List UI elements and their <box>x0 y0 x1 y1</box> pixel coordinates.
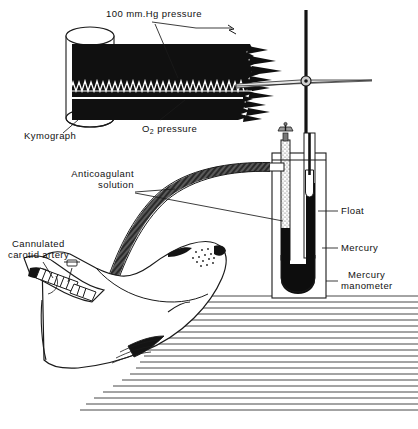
label-kymograph: Kymograph <box>24 130 76 141</box>
label-cannulated-line1: Cannulated <box>12 238 65 249</box>
label-float: Float <box>341 205 364 216</box>
o2-prefix: O <box>142 123 150 134</box>
label-pressure-scale: 100 mm.Hg pressure <box>96 8 212 19</box>
label-anticoagulant-line1: Anticoagulant <box>40 168 134 179</box>
o2-suffix: pressure <box>154 123 197 134</box>
label-mercury-manometer-line1: Mercury <box>348 269 385 280</box>
mercury-manometer <box>268 122 326 298</box>
stopcock-valve <box>278 122 293 141</box>
label-o2-pressure: O2 pressure <box>142 123 197 137</box>
vertical-float-rod <box>301 10 311 150</box>
label-anticoagulant-line2: solution <box>40 179 134 190</box>
label-mercury-manometer-line2: manometer <box>341 280 393 291</box>
label-cannulated-line2: carotid artery <box>8 249 69 260</box>
label-mercury: Mercury <box>341 242 378 253</box>
figure-root: 100 mm.Hg pressure Kymograph O2 pressure… <box>0 0 418 429</box>
